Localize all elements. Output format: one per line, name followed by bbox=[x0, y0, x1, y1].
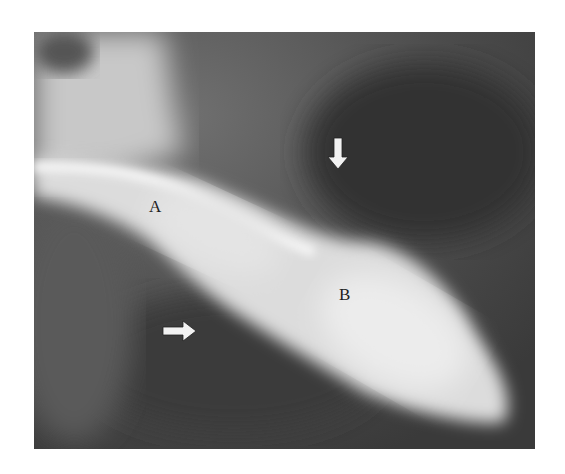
label-a: A bbox=[149, 197, 161, 217]
radiograph-image bbox=[34, 32, 535, 449]
radiograph-figure: A B bbox=[34, 32, 535, 449]
label-b: B bbox=[339, 285, 350, 305]
